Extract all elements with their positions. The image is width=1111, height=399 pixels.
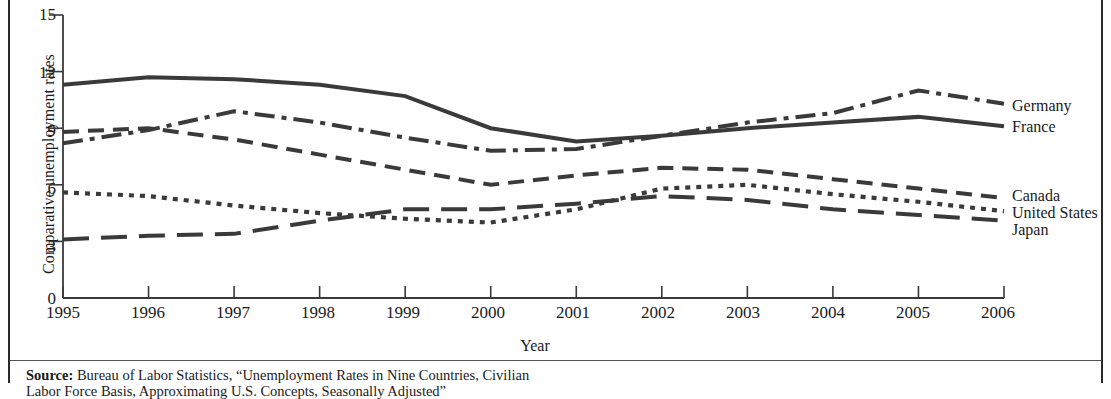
series-label-france: France bbox=[1012, 118, 1056, 135]
series-line-canada bbox=[63, 128, 1004, 198]
source-prefix: Source: bbox=[26, 367, 73, 383]
figure-source-note: Source: Bureau of Labor Statistics, “Une… bbox=[26, 367, 1086, 399]
source-body: Bureau of Labor Statistics, “Unemploymen… bbox=[26, 367, 529, 399]
data-series-lines bbox=[63, 77, 1004, 239]
series-label-united-states: United States bbox=[1012, 204, 1098, 221]
axis-lines bbox=[49, 15, 1004, 298]
series-label-canada: Canada bbox=[1012, 187, 1060, 204]
series-line-france bbox=[63, 77, 1004, 141]
series-line-japan bbox=[63, 196, 1004, 239]
series-label-germany: Germany bbox=[1012, 97, 1072, 114]
series-label-japan: Japan bbox=[1012, 221, 1048, 238]
series-line-united-states bbox=[63, 185, 1004, 223]
